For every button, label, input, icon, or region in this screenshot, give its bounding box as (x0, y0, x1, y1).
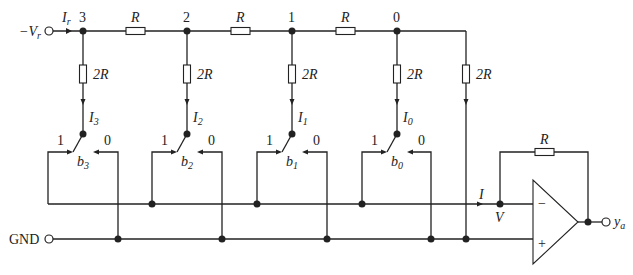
ground-bus (53, 236, 533, 243)
r2r-dac-diagram: −Vr Ir 3 2 1 0 R R R 2R 2R 2R 2R 2R I3 I… (0, 0, 633, 275)
ground-terminal (45, 235, 53, 243)
svg-text:2: 2 (183, 10, 190, 25)
svg-text:1: 1 (371, 133, 378, 148)
svg-text:1: 1 (266, 133, 273, 148)
output-terminal (602, 218, 610, 226)
svg-text:I3: I3 (88, 110, 99, 127)
svg-text:Ir: Ir (61, 10, 71, 27)
input-current-arrow-icon (66, 28, 72, 34)
svg-text:0: 0 (393, 10, 400, 25)
svg-text:R: R (130, 10, 140, 25)
svg-text:0: 0 (313, 133, 320, 148)
svg-text:R: R (340, 10, 350, 25)
svg-text:GND: GND (9, 232, 39, 247)
sum-current-arrow-icon (477, 202, 483, 207)
svg-text:1: 1 (288, 10, 295, 25)
svg-text:R: R (539, 132, 549, 147)
svg-text:2R: 2R (93, 67, 109, 82)
svg-text:I1: I1 (297, 110, 308, 127)
svg-text:0: 0 (418, 133, 425, 148)
svg-text:b0: b0 (391, 154, 403, 171)
svg-text:2R: 2R (302, 67, 318, 82)
svg-text:b2: b2 (181, 154, 193, 171)
svg-text:R: R (235, 10, 245, 25)
circuit-svg: −Vr Ir 3 2 1 0 R R R 2R 2R 2R 2R 2R I3 I… (0, 0, 633, 275)
svg-text:1: 1 (161, 133, 168, 148)
svg-text:0: 0 (208, 133, 215, 148)
svg-text:1: 1 (57, 133, 64, 148)
branches (48, 28, 470, 240)
svg-text:b1: b1 (286, 154, 298, 171)
feedback-resistor (535, 149, 554, 156)
svg-text:2R: 2R (197, 67, 213, 82)
top-rail (53, 28, 466, 239)
opamp (533, 180, 602, 264)
svg-text:I0: I0 (402, 110, 413, 127)
summing-bus (48, 201, 533, 208)
svg-text:b3: b3 (77, 154, 89, 171)
svg-text:−Vr: −Vr (19, 24, 41, 41)
svg-text:V: V (495, 210, 505, 225)
svg-text:2R: 2R (476, 67, 492, 82)
svg-text:ya: ya (612, 214, 625, 231)
svg-text:I: I (478, 187, 485, 202)
svg-text:3: 3 (79, 10, 86, 25)
svg-text:−: − (538, 196, 546, 211)
svg-text:2R: 2R (407, 67, 423, 82)
svg-text:I2: I2 (192, 110, 203, 127)
svg-text:+: + (538, 236, 546, 251)
svg-text:0: 0 (104, 133, 111, 148)
input-terminal (45, 27, 53, 35)
